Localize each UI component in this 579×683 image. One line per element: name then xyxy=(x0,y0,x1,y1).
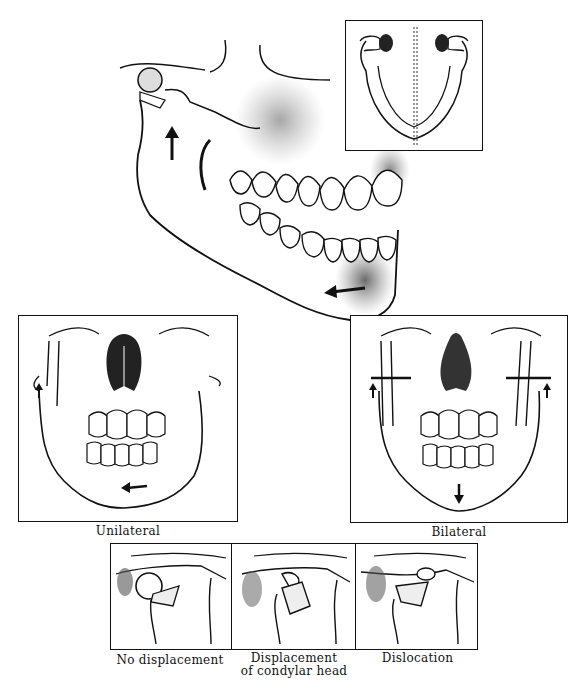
panel-displacement xyxy=(231,543,357,650)
caption-unilateral: Unilateral xyxy=(18,525,238,538)
panel-unilateral xyxy=(18,315,238,522)
caption-no-displacement: No displacement xyxy=(100,654,240,667)
upward-arrow-right-icon xyxy=(543,383,551,398)
inset-superior-view xyxy=(345,20,483,151)
leftward-arrow-icon xyxy=(121,482,147,493)
downward-arrow-icon xyxy=(454,484,464,504)
caption-dislocation: Dislocation xyxy=(355,652,480,665)
panel-bilateral xyxy=(350,315,568,523)
upward-arrow-icon xyxy=(35,383,43,398)
upward-arrow-icon xyxy=(165,126,179,160)
upward-arrow-left-icon xyxy=(369,383,377,398)
caption-displacement-line2: of condylar head xyxy=(228,665,360,678)
caption-bilateral: Bilateral xyxy=(350,526,568,539)
panel-no-displacement xyxy=(110,543,233,650)
panel-dislocation xyxy=(355,543,478,650)
